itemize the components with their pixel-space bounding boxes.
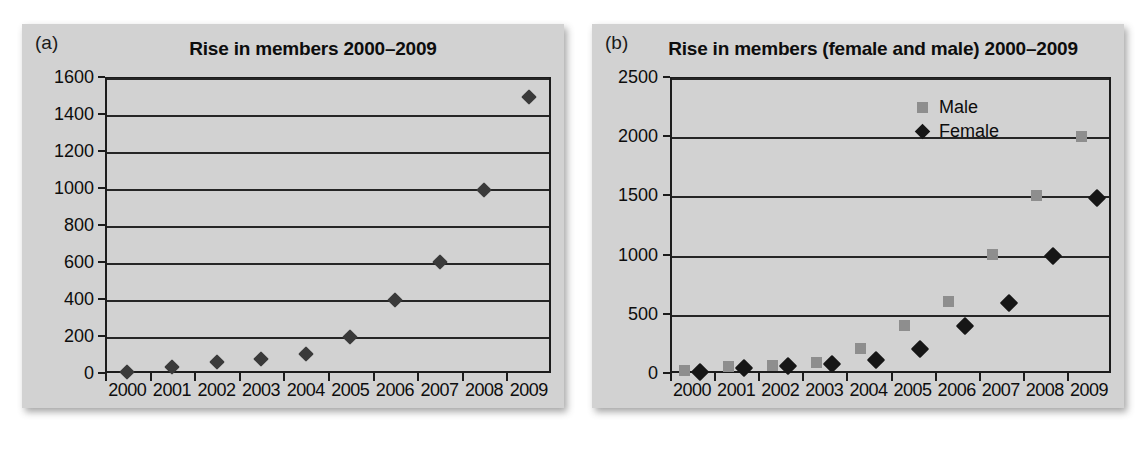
chart-legend: MaleFemale — [917, 94, 999, 142]
x-axis-tick-label: 2006 — [938, 380, 976, 401]
x-axis-tick-label: 2001 — [153, 380, 191, 401]
x-axis-tick-label: 2006 — [376, 380, 414, 401]
y-axis-tick-mark — [98, 76, 105, 78]
data-point-marker-square — [723, 361, 734, 372]
gridline — [107, 263, 549, 265]
y-axis-tick-label: 1000 — [600, 244, 658, 265]
chart-panel-a: (a) Rise in members 2000–2009 0200400600… — [22, 24, 564, 408]
gridline — [107, 300, 549, 302]
x-axis-tick-label: 2007 — [420, 380, 458, 401]
y-axis-tick-mark — [98, 187, 105, 189]
x-axis-tick-mark — [802, 373, 804, 381]
x-axis-tick-mark — [935, 373, 937, 381]
x-axis-tick-mark — [1067, 373, 1069, 381]
diamond-icon — [915, 123, 931, 139]
chart-title-b: Rise in members (female and male) 2000–2… — [592, 38, 1124, 60]
gridline — [107, 115, 549, 117]
x-axis-tick-mark — [846, 373, 848, 381]
gridline — [672, 315, 1109, 317]
plot-area-a — [105, 77, 551, 373]
x-axis-tick-mark — [506, 373, 508, 381]
gridline — [107, 78, 549, 80]
y-axis-tick-label: 1200 — [32, 141, 94, 162]
x-axis-tick-label: 2008 — [1026, 380, 1064, 401]
x-axis-tick-mark — [670, 373, 672, 381]
data-point-marker-square — [1076, 131, 1087, 142]
x-axis-tick-label: 2009 — [510, 380, 548, 401]
y-axis-tick-mark — [98, 335, 105, 337]
x-axis-tick-label: 2005 — [331, 380, 369, 401]
x-axis-tick-label: 2009 — [1070, 380, 1108, 401]
x-axis-tick-label: 2004 — [849, 380, 887, 401]
y-axis-tick-mark — [98, 261, 105, 263]
x-axis-tick-label: 2000 — [673, 380, 711, 401]
gridline — [107, 337, 549, 339]
x-axis-tick-label: 2002 — [197, 380, 235, 401]
y-axis-tick-label: 800 — [32, 215, 94, 236]
x-axis-tick-mark — [150, 373, 152, 381]
x-axis-tick-mark — [758, 373, 760, 381]
x-axis-tick-mark — [105, 373, 107, 381]
plot-area-b — [670, 77, 1111, 373]
data-point-marker-square — [767, 360, 778, 371]
x-axis-tick-label: 2008 — [465, 380, 503, 401]
y-axis-tick-label: 1500 — [600, 185, 658, 206]
x-axis-tick-mark — [979, 373, 981, 381]
y-axis-tick-mark — [663, 135, 670, 137]
figure-root: (a) Rise in members 2000–2009 0200400600… — [0, 0, 1143, 457]
square-icon — [917, 102, 928, 113]
y-axis-tick-mark — [663, 76, 670, 78]
x-axis-tick-mark — [462, 373, 464, 381]
y-axis-tick-label: 1000 — [32, 178, 94, 199]
y-axis-tick-label: 500 — [600, 303, 658, 324]
y-axis-tick-mark — [663, 313, 670, 315]
legend-entry: Female — [917, 118, 999, 142]
data-point-marker-square — [811, 357, 822, 368]
data-point-marker-square — [855, 343, 866, 354]
x-axis-tick-label: 2003 — [242, 380, 280, 401]
data-point-marker-square — [987, 249, 998, 260]
x-axis-tick-label: 2007 — [982, 380, 1020, 401]
y-axis-tick-mark — [98, 298, 105, 300]
legend-entry: Male — [917, 94, 999, 118]
x-axis-tick-mark — [714, 373, 716, 381]
x-axis-tick-label: 2001 — [717, 380, 755, 401]
y-axis-tick-mark — [98, 150, 105, 152]
y-axis-tick-label: 2000 — [600, 126, 658, 147]
x-axis-tick-mark — [373, 373, 375, 381]
y-axis-tick-label: 0 — [600, 363, 658, 384]
y-axis-tick-mark — [98, 113, 105, 115]
x-axis-tick-mark — [194, 373, 196, 381]
y-axis-tick-mark — [98, 372, 105, 374]
y-axis-tick-mark — [663, 254, 670, 256]
legend-entry-label: Female — [939, 119, 999, 143]
y-axis-tick-mark — [663, 194, 670, 196]
x-axis-tick-label: 2002 — [761, 380, 799, 401]
y-axis-tick-label: 2500 — [600, 67, 658, 88]
gridline — [107, 226, 549, 228]
gridline — [107, 152, 549, 154]
gridline — [672, 78, 1109, 80]
x-axis-tick-label: 2000 — [108, 380, 146, 401]
data-point-marker-square — [899, 320, 910, 331]
x-axis-tick-mark — [417, 373, 419, 381]
y-axis-tick-label: 600 — [32, 252, 94, 273]
x-axis-tick-label: 2005 — [894, 380, 932, 401]
gridline — [672, 196, 1109, 198]
data-point-marker-square — [943, 296, 954, 307]
legend-entry-label: Male — [939, 95, 978, 119]
x-axis-tick-mark — [283, 373, 285, 381]
y-axis-tick-label: 1600 — [32, 67, 94, 88]
x-axis-tick-mark — [891, 373, 893, 381]
y-axis-tick-mark — [98, 224, 105, 226]
gridline — [672, 137, 1109, 139]
y-axis-tick-mark — [663, 372, 670, 374]
chart-panel-b: (b) Rise in members (female and male) 20… — [592, 24, 1124, 408]
y-axis-tick-label: 200 — [32, 326, 94, 347]
chart-title-a: Rise in members 2000–2009 — [22, 38, 564, 60]
data-point-marker-square — [679, 365, 690, 376]
x-axis-tick-label: 2003 — [805, 380, 843, 401]
y-axis-tick-label: 1400 — [32, 104, 94, 125]
x-axis-tick-label: 2004 — [287, 380, 325, 401]
y-axis-tick-label: 400 — [32, 289, 94, 310]
